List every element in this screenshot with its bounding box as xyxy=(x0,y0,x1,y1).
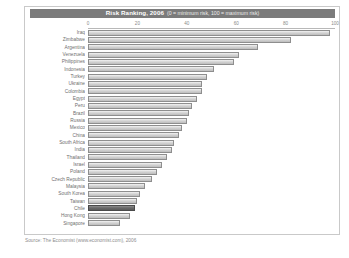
bar-track xyxy=(88,220,120,226)
bar-row: Thailand xyxy=(30,154,335,161)
bar-track xyxy=(88,213,130,219)
x-axis-tick-labels: 020406080100 xyxy=(30,19,335,28)
bar-row: Indonesia xyxy=(30,66,335,73)
bar-category-label: Philippines xyxy=(30,58,85,65)
bar-row: South Africa xyxy=(30,139,335,146)
chart-subtitle: (0 = minimum risk, 100 = maximum risk) xyxy=(167,11,259,16)
bar-category-label: Turkey xyxy=(30,73,85,80)
bar-category-label: Zimbabwe xyxy=(30,36,85,43)
bar xyxy=(88,30,330,36)
bar xyxy=(88,140,174,146)
bar-track xyxy=(88,169,157,175)
bar-category-label: Colombia xyxy=(30,88,85,95)
bar-category-label: Russia xyxy=(30,117,85,124)
bar-category-label: South Africa xyxy=(30,139,85,146)
bar xyxy=(88,191,140,197)
bar-row: Russia xyxy=(30,117,335,124)
bar xyxy=(88,169,157,175)
bar-category-label: Mexico xyxy=(30,124,85,131)
bar-track xyxy=(88,140,174,146)
bar-row: Philippines xyxy=(30,58,335,65)
bar-category-label: Poland xyxy=(30,168,85,175)
x-tick-label: 0 xyxy=(87,19,90,28)
x-tick-label: 80 xyxy=(283,19,288,28)
bar-row: Taiwan xyxy=(30,198,335,205)
bar-track xyxy=(88,52,239,58)
bar-track xyxy=(88,147,172,153)
bar-category-label: India xyxy=(30,146,85,153)
bar-category-label: Malaysia xyxy=(30,183,85,190)
bar-track xyxy=(88,198,137,204)
bar-category-label: Hong Kong xyxy=(30,212,85,219)
x-tick-label: 40 xyxy=(184,19,189,28)
bar-track xyxy=(88,154,167,160)
bar-row: Poland xyxy=(30,168,335,175)
bar-row: Brazil xyxy=(30,110,335,117)
bar-track xyxy=(88,30,330,36)
bar xyxy=(88,183,145,189)
bar xyxy=(88,96,197,102)
bar-category-label: Taiwan xyxy=(30,198,85,205)
plot-area: 020406080100 IraqZimbabweArgentinaVenezu… xyxy=(30,19,335,232)
bar-category-label: Iraq xyxy=(30,29,85,36)
bar xyxy=(88,59,234,65)
chart-title-bar: Risk Ranking, 2006 (0 = minimum risk, 10… xyxy=(30,9,335,18)
bar-category-label: Argentina xyxy=(30,44,85,51)
bar-row: Peru xyxy=(30,102,335,109)
bar xyxy=(88,205,135,211)
bar-track xyxy=(88,162,162,168)
bar-row: Egypt xyxy=(30,95,335,102)
bar-category-label: Peru xyxy=(30,102,85,109)
bar-track xyxy=(88,103,192,109)
bars-container: IraqZimbabweArgentinaVenezuelaPhilippine… xyxy=(30,29,335,227)
bar-track xyxy=(88,205,135,211)
x-tick-label: 60 xyxy=(234,19,239,28)
bar xyxy=(88,132,179,138)
bar-row: Malaysia xyxy=(30,183,335,190)
bar-row: Chile xyxy=(30,205,335,212)
x-tick-label: 100 xyxy=(331,19,339,28)
bar-category-label: Chile xyxy=(30,205,85,212)
bar-category-label: Israel xyxy=(30,161,85,168)
bar xyxy=(88,220,120,226)
bar-row: Israel xyxy=(30,161,335,168)
bar-track xyxy=(88,132,179,138)
bar-category-label: Ukraine xyxy=(30,80,85,87)
bar-track xyxy=(88,110,189,116)
bar-track xyxy=(88,44,258,50)
bar xyxy=(88,162,162,168)
bar xyxy=(88,125,182,131)
bar-category-label: Indonesia xyxy=(30,66,85,73)
bar-track xyxy=(88,37,291,43)
bar-track xyxy=(88,59,234,65)
bar-row: Singapore xyxy=(30,220,335,227)
bar-row: Venezuela xyxy=(30,51,335,58)
bar-category-label: Egypt xyxy=(30,95,85,102)
risk-ranking-chart: Risk Ranking, 2006 (0 = minimum risk, 10… xyxy=(0,0,349,258)
bar-category-label: Venezuela xyxy=(30,51,85,58)
bar-row: Argentina xyxy=(30,44,335,51)
bar xyxy=(88,66,214,72)
bar xyxy=(88,110,189,116)
bar-row: South Korea xyxy=(30,190,335,197)
bar xyxy=(88,37,291,43)
bar-row: Iraq xyxy=(30,29,335,36)
bar-track xyxy=(88,118,187,124)
source-note: Source: The Economist (www.economist.com… xyxy=(25,237,136,245)
bar-row: Hong Kong xyxy=(30,212,335,219)
bar xyxy=(88,198,137,204)
bar-row: China xyxy=(30,132,335,139)
bar-track xyxy=(88,81,202,87)
bar-row: Mexico xyxy=(30,124,335,131)
bar-track xyxy=(88,88,202,94)
chart-title: Risk Ranking, 2006 xyxy=(106,10,164,16)
bar-track xyxy=(88,74,207,80)
x-tick-label: 20 xyxy=(135,19,140,28)
bar-track xyxy=(88,66,214,72)
bar-row: Colombia xyxy=(30,88,335,95)
bar-category-label: Singapore xyxy=(30,220,85,227)
bar-category-label: Thailand xyxy=(30,154,85,161)
bar-track xyxy=(88,191,140,197)
bar xyxy=(88,44,258,50)
bar-category-label: China xyxy=(30,132,85,139)
